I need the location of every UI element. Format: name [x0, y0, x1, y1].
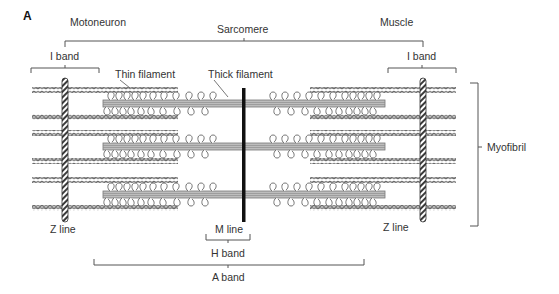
- h-band-bracket: [206, 234, 250, 243]
- m-line-label: M line: [215, 224, 243, 235]
- panel-label: A: [23, 9, 32, 23]
- i-band-left-bracket: [31, 65, 99, 73]
- a-band-label: A band: [212, 272, 245, 283]
- i-band-right-bracket: [388, 65, 456, 73]
- i-band-right-label: I band: [407, 51, 436, 62]
- a-band-bracket: [94, 259, 364, 268]
- h-band-label: H band: [211, 248, 245, 259]
- myofibril-bracket: [470, 83, 482, 226]
- motoneuron-label: Motoneuron: [70, 17, 126, 28]
- thick-filament-label: Thick filament: [208, 69, 273, 80]
- myofibril-label: Myofibril: [487, 142, 526, 153]
- sarcomere-bracket: [65, 38, 423, 47]
- muscle-label: Muscle: [380, 17, 413, 28]
- z-line-right-label: Z line: [383, 222, 409, 233]
- z-line-right: [420, 78, 426, 222]
- z-line-left: [62, 78, 68, 222]
- z-line-left-label: Z line: [50, 224, 76, 235]
- diagram-graphics: [0, 0, 559, 294]
- m-line: [242, 88, 246, 222]
- sarcomere-label: Sarcomere: [217, 24, 268, 35]
- i-band-left-label: I band: [50, 51, 79, 62]
- thin-filament-label: Thin filament: [115, 69, 175, 80]
- sarcomere-diagram: A Motoneuron Muscle Sarcomere I band I b…: [0, 0, 559, 294]
